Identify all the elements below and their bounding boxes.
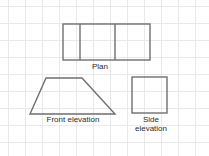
shapes-layer	[0, 0, 209, 156]
front-elevation-label: Front elevation	[20, 115, 126, 124]
side-elevation-label-line1: Side	[143, 115, 159, 124]
side-elevation-square	[132, 77, 167, 113]
plan-shape-group	[63, 24, 150, 60]
front-elevation-trapezoid	[30, 78, 115, 114]
plan-label: Plan	[72, 62, 128, 71]
plan-rectangle	[63, 24, 150, 60]
front-elevation-shape-group	[30, 78, 115, 114]
figure-canvas: Plan Front elevation Side elevation	[0, 0, 209, 156]
side-elevation-label: Side elevation	[126, 115, 176, 133]
side-elevation-label-line2: elevation	[135, 124, 167, 133]
side-elevation-shape-group	[132, 77, 167, 113]
